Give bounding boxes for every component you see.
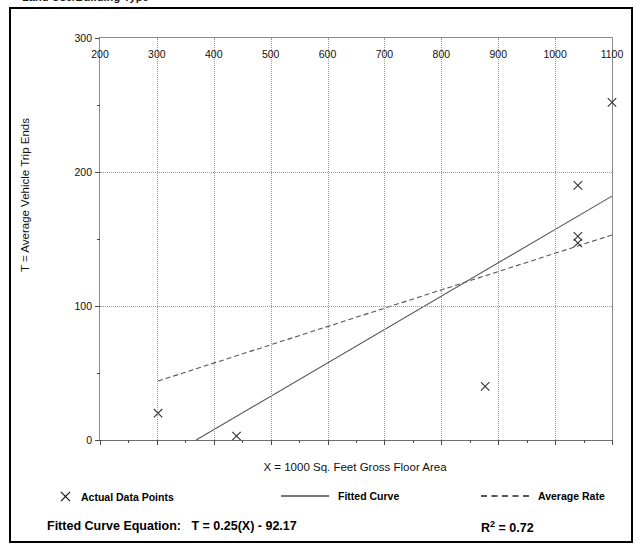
chart-frame: 2003004005006007008009001000110001002003… xyxy=(9,7,633,543)
y-axis-title: T = Average Vehicle Trip Ends xyxy=(19,15,31,375)
gridline-vertical xyxy=(214,38,215,440)
x-axis-tick-minor xyxy=(185,440,186,443)
x-axis-tick-minor xyxy=(527,440,528,443)
x-axis-tick xyxy=(214,440,215,445)
r-squared-number: = 0.72 xyxy=(499,521,534,535)
x-axis-tick-label: 200 xyxy=(91,48,109,60)
y-axis-tick-minor xyxy=(97,105,100,106)
r-squared-label: R xyxy=(481,521,490,535)
x-axis-tick-minor xyxy=(299,440,300,443)
x-axis-tick-label: 500 xyxy=(262,48,280,60)
x-axis-tick-minor xyxy=(128,440,129,443)
data-point-marker xyxy=(481,382,489,390)
y-axis-tick-minor xyxy=(97,239,100,240)
r-squared-exponent: 2 xyxy=(490,519,495,529)
y-axis-tick xyxy=(95,306,100,307)
gridline-vertical xyxy=(157,38,158,440)
data-point-marker xyxy=(154,409,162,417)
x-axis-tick xyxy=(328,440,329,445)
x-axis-tick-label: 400 xyxy=(205,48,223,60)
x-axis-tick xyxy=(441,440,442,445)
gridline-vertical xyxy=(441,38,442,440)
fitted-curve-line xyxy=(196,196,612,440)
r-squared-value: R2 = 0.72 xyxy=(481,519,534,535)
x-axis-tick-minor xyxy=(356,440,357,443)
x-axis-tick-minor xyxy=(470,440,471,443)
x-marker-icon xyxy=(59,490,72,503)
equation-value: T = 0.25(X) - 92.17 xyxy=(191,519,296,533)
x-axis-tick-label: 1100 xyxy=(601,48,624,60)
legend-label: Fitted Curve xyxy=(338,490,399,502)
equation-label: Fitted Curve Equation: xyxy=(47,519,181,533)
legend-item-actual-data-points: Actual Data Points xyxy=(59,490,174,503)
y-axis-tick-minor xyxy=(97,373,100,374)
gridline-vertical xyxy=(384,38,385,440)
gridline-horizontal xyxy=(100,172,612,173)
fitted-curve-equation: Fitted Curve Equation: T = 0.25(X) - 92.… xyxy=(47,519,297,533)
legend-label: Average Rate xyxy=(538,490,605,502)
legend-label: Actual Data Points xyxy=(81,491,174,503)
legend-item-average-rate: Average Rate xyxy=(481,490,605,502)
x-axis-tick xyxy=(612,440,613,445)
solid-line-icon xyxy=(281,495,329,497)
gridline-vertical xyxy=(555,38,556,440)
y-axis-tick xyxy=(95,172,100,173)
x-axis-tick xyxy=(157,440,158,445)
data-point-marker xyxy=(232,432,240,440)
data-point-marker xyxy=(574,232,582,240)
x-axis-tick xyxy=(384,440,385,445)
data-point-marker xyxy=(574,181,582,189)
data-point-marker xyxy=(608,98,616,106)
x-axis-tick-label: 700 xyxy=(376,48,394,60)
chart-region: 2003004005006007008009001000110001002003… xyxy=(11,9,635,487)
gridline-horizontal xyxy=(100,306,612,307)
x-axis-tick-label: 1000 xyxy=(543,48,566,60)
equation-row: Fitted Curve Equation: T = 0.25(X) - 92.… xyxy=(11,519,635,543)
gridline-vertical xyxy=(328,38,329,440)
x-axis-title: X = 1000 Sq. Feet Gross Floor Area xyxy=(99,461,611,473)
x-axis-tick-label: 900 xyxy=(489,48,507,60)
x-axis-tick xyxy=(555,440,556,445)
y-axis-tick-label: 0 xyxy=(86,434,92,446)
y-axis-tick xyxy=(95,38,100,39)
chart-legend: Actual Data Points Fitted Curve Average … xyxy=(11,490,635,516)
x-axis-tick xyxy=(271,440,272,445)
y-axis-tick-label: 100 xyxy=(74,300,92,312)
legend-item-fitted-curve: Fitted Curve xyxy=(281,490,399,502)
plot-area: 2003004005006007008009001000110001002003… xyxy=(99,37,613,441)
x-axis-tick xyxy=(498,440,499,445)
clipped-page-title: Land Use/Building Type xyxy=(22,0,149,3)
y-axis-tick-label: 200 xyxy=(74,166,92,178)
y-axis-tick-label: 300 xyxy=(74,32,92,44)
y-axis-tick xyxy=(95,440,100,441)
gridline-vertical xyxy=(498,38,499,440)
x-axis-tick-minor xyxy=(413,440,414,443)
x-axis-tick xyxy=(100,440,101,445)
x-axis-tick-minor xyxy=(584,440,585,443)
gridline-vertical xyxy=(271,38,272,440)
x-axis-tick-label: 600 xyxy=(319,48,337,60)
x-axis-tick-minor xyxy=(242,440,243,443)
plot-svg-layer xyxy=(100,38,612,440)
x-axis-tick-label: 800 xyxy=(433,48,451,60)
x-axis-tick-label: 300 xyxy=(148,48,166,60)
dashed-line-icon xyxy=(481,495,529,497)
